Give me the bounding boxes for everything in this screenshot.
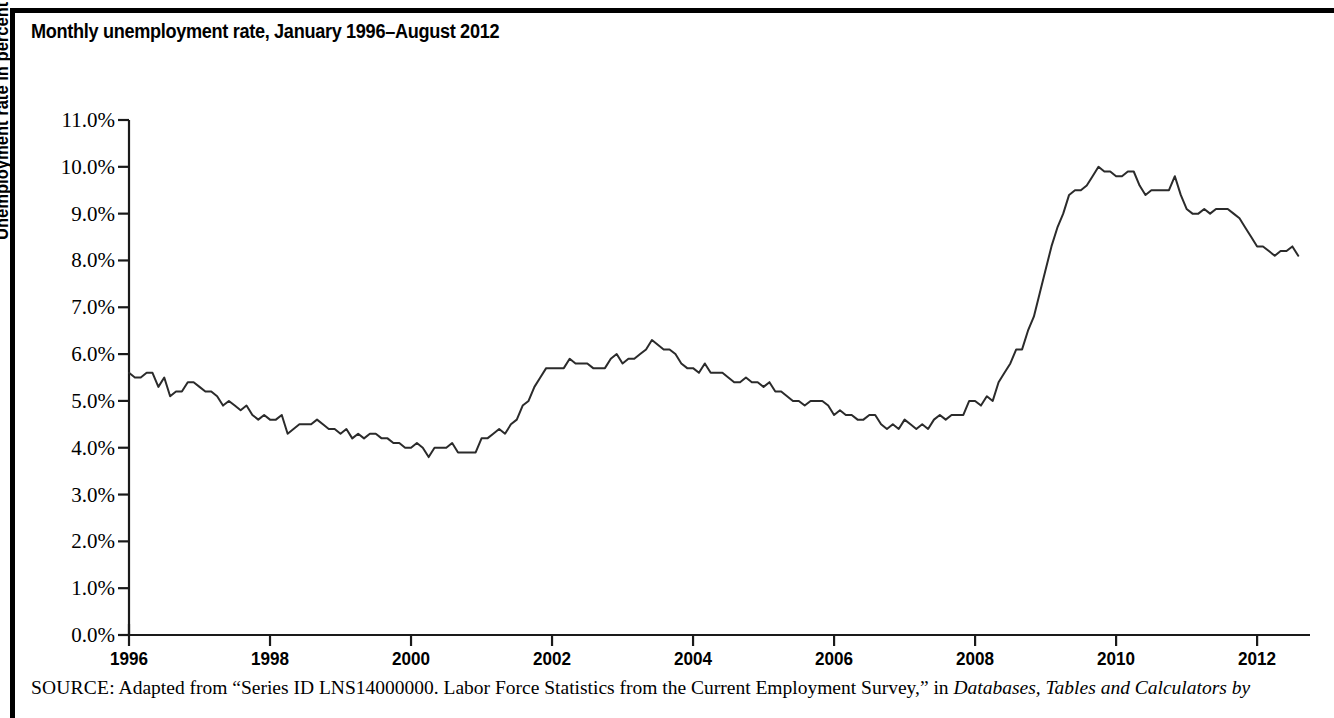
y-axis-tick-labels: 0.0%1.0%2.0%3.0%4.0%5.0%6.0%7.0%8.0%9.0%… (0, 0, 129, 718)
figure-container: Monthly unemployment rate, January 1996–… (0, 0, 1334, 718)
y-tick-label: 1.0% (71, 576, 115, 601)
source-label: SOURCE: (31, 677, 115, 698)
y-tick-label: 8.0% (71, 248, 115, 273)
y-tick-label: 0.0% (71, 623, 115, 648)
figure-border-top (10, 8, 1334, 13)
x-tick-label: 1998 (251, 648, 289, 670)
y-tick-label: 6.0% (71, 342, 115, 367)
x-tick-label: 2002 (533, 648, 571, 670)
x-tick-label: 2004 (674, 648, 712, 670)
unemployment-rate-line (129, 167, 1298, 457)
y-tick-label: 9.0% (71, 201, 115, 226)
y-tick-label: 3.0% (71, 482, 115, 507)
source-italic-title: Databases, Tables and Calculators by (953, 677, 1250, 698)
x-tick-label: 2000 (392, 648, 430, 670)
y-tick-label: 10.0% (61, 154, 115, 179)
y-tick-label: 11.0% (62, 108, 115, 133)
x-tick-label: 1996 (110, 648, 148, 670)
y-tick-label: 4.0% (71, 435, 115, 460)
x-tick-label: 2008 (956, 648, 994, 670)
x-tick-label: 2006 (815, 648, 853, 670)
y-tick-label: 7.0% (71, 295, 115, 320)
x-tick-label: 2012 (1238, 648, 1276, 670)
chart-svg (129, 120, 1310, 635)
y-tick-label: 5.0% (71, 388, 115, 413)
source-note: SOURCE: Adapted from “Series ID LNS14000… (31, 676, 1331, 700)
source-body: Adapted from “Series ID LNS14000000. Lab… (119, 677, 949, 698)
x-tick-label: 2010 (1097, 648, 1135, 670)
plot-area (129, 120, 1310, 635)
y-tick-label: 2.0% (71, 529, 115, 554)
